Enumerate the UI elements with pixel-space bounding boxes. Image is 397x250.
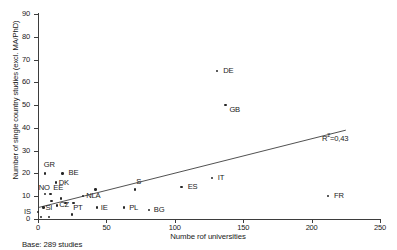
base-note: Base: 289 studies bbox=[22, 240, 82, 249]
data-point bbox=[50, 200, 52, 202]
data-point bbox=[44, 193, 46, 195]
data-point-label: NL bbox=[86, 192, 95, 200]
data-point bbox=[148, 209, 150, 211]
data-point bbox=[64, 202, 66, 204]
y-tick-mark bbox=[34, 151, 38, 152]
y-tick-mark bbox=[34, 37, 38, 38]
data-point-label: PT bbox=[73, 204, 82, 212]
y-tick-mark bbox=[34, 173, 38, 174]
data-point bbox=[49, 193, 51, 195]
data-point-label: FR bbox=[334, 192, 344, 200]
data-point bbox=[44, 172, 46, 174]
data-point bbox=[72, 202, 74, 204]
x-tick-label: 200 bbox=[297, 224, 327, 232]
x-axis-line bbox=[38, 219, 381, 220]
data-point bbox=[61, 172, 63, 174]
data-point bbox=[48, 216, 50, 218]
data-point-label: PL bbox=[129, 204, 138, 212]
data-point-label: ES bbox=[188, 183, 198, 191]
data-point-label: DE bbox=[223, 67, 233, 75]
data-point-label: NO bbox=[39, 184, 50, 192]
data-point bbox=[224, 104, 226, 106]
y-axis-title: Number of single country studies (excl. … bbox=[12, 8, 20, 192]
y-tick-mark bbox=[34, 60, 38, 61]
data-point-label: GB bbox=[229, 106, 240, 114]
data-point-label: EE bbox=[53, 184, 63, 192]
data-point bbox=[60, 197, 62, 199]
data-point bbox=[96, 206, 98, 208]
data-point-label: BE bbox=[69, 169, 79, 177]
trend-line bbox=[0, 0, 397, 250]
r-squared-annotation: R2=0,43 bbox=[322, 132, 348, 143]
x-axis-title: Numbe rof universities bbox=[118, 232, 298, 241]
data-point bbox=[211, 177, 213, 179]
x-tick-label: 0 bbox=[23, 224, 53, 232]
data-point-label: IT bbox=[218, 174, 224, 182]
data-point bbox=[71, 213, 73, 215]
data-point-label: BG bbox=[154, 206, 165, 214]
data-point bbox=[82, 195, 84, 197]
y-tick-mark bbox=[34, 128, 38, 129]
data-point bbox=[327, 195, 329, 197]
x-tick-label: 100 bbox=[160, 224, 190, 232]
x-tick-label: 50 bbox=[91, 224, 121, 232]
y-tick-mark bbox=[34, 14, 38, 15]
data-point bbox=[42, 206, 44, 208]
data-point bbox=[134, 188, 136, 190]
y-tick-mark bbox=[34, 82, 38, 83]
data-point bbox=[56, 204, 58, 206]
y-tick-mark bbox=[34, 196, 38, 197]
data-point bbox=[40, 216, 42, 218]
scatter-chart: 0102030405060708090 050100150200250 Numb… bbox=[0, 0, 397, 250]
data-point bbox=[94, 188, 96, 190]
x-tick-label: 150 bbox=[228, 224, 258, 232]
data-point-label: IS bbox=[24, 208, 31, 216]
data-point-label: GR bbox=[44, 161, 55, 169]
data-point-label: IE bbox=[101, 204, 108, 212]
x-tick-label: 250 bbox=[365, 224, 395, 232]
data-point-label: S bbox=[136, 178, 141, 186]
data-point bbox=[123, 206, 125, 208]
r-squared-value: =0,43 bbox=[330, 134, 348, 143]
data-point-label: A bbox=[95, 192, 100, 200]
y-tick-mark bbox=[34, 105, 38, 106]
data-point-label: SI bbox=[45, 204, 52, 212]
data-point bbox=[180, 186, 182, 188]
data-point bbox=[216, 70, 218, 72]
y-tick-label: 10 bbox=[6, 192, 30, 200]
